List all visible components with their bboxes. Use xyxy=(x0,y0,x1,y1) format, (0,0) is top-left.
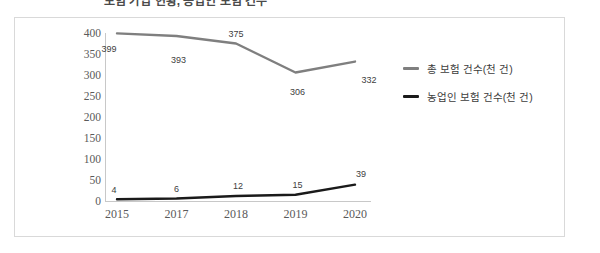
plot-area: 400350300250200150100500 201520172018201… xyxy=(15,18,566,238)
legend-label: 농업인 보험 건수(천 건) xyxy=(427,89,533,104)
page-title: 보험 가입 현황, 농업인 보험 건수 xyxy=(104,0,267,7)
data-point-label: 393 xyxy=(171,56,186,65)
data-point-label: 332 xyxy=(361,76,376,85)
legend-label: 총 보험 건수(천 건) xyxy=(427,61,513,76)
data-point-label: 39 xyxy=(356,170,366,179)
legend-swatch-icon xyxy=(403,67,419,70)
data-point-label: 4 xyxy=(111,186,116,195)
data-point-label: 6 xyxy=(174,185,179,194)
legend-item-0[interactable]: 총 보험 건수(천 건) xyxy=(403,54,558,82)
data-point-label: 12 xyxy=(233,182,243,191)
data-point-label: 306 xyxy=(290,88,305,97)
data-point-label: 15 xyxy=(292,181,302,190)
series-lines xyxy=(15,18,566,238)
data-point-label: 399 xyxy=(101,45,116,54)
legend-swatch-icon xyxy=(403,95,419,98)
chart-frame: 400350300250200150100500 201520172018201… xyxy=(14,17,565,237)
series-line-0 xyxy=(117,33,355,72)
data-point-label: 375 xyxy=(228,30,243,39)
chart-legend: 총 보험 건수(천 건)농업인 보험 건수(천 건) xyxy=(403,54,558,110)
legend-item-1[interactable]: 농업인 보험 건수(천 건) xyxy=(403,82,558,110)
cropped-title-strip: 보험 가입 현황, 농업인 보험 건수 xyxy=(0,0,600,7)
